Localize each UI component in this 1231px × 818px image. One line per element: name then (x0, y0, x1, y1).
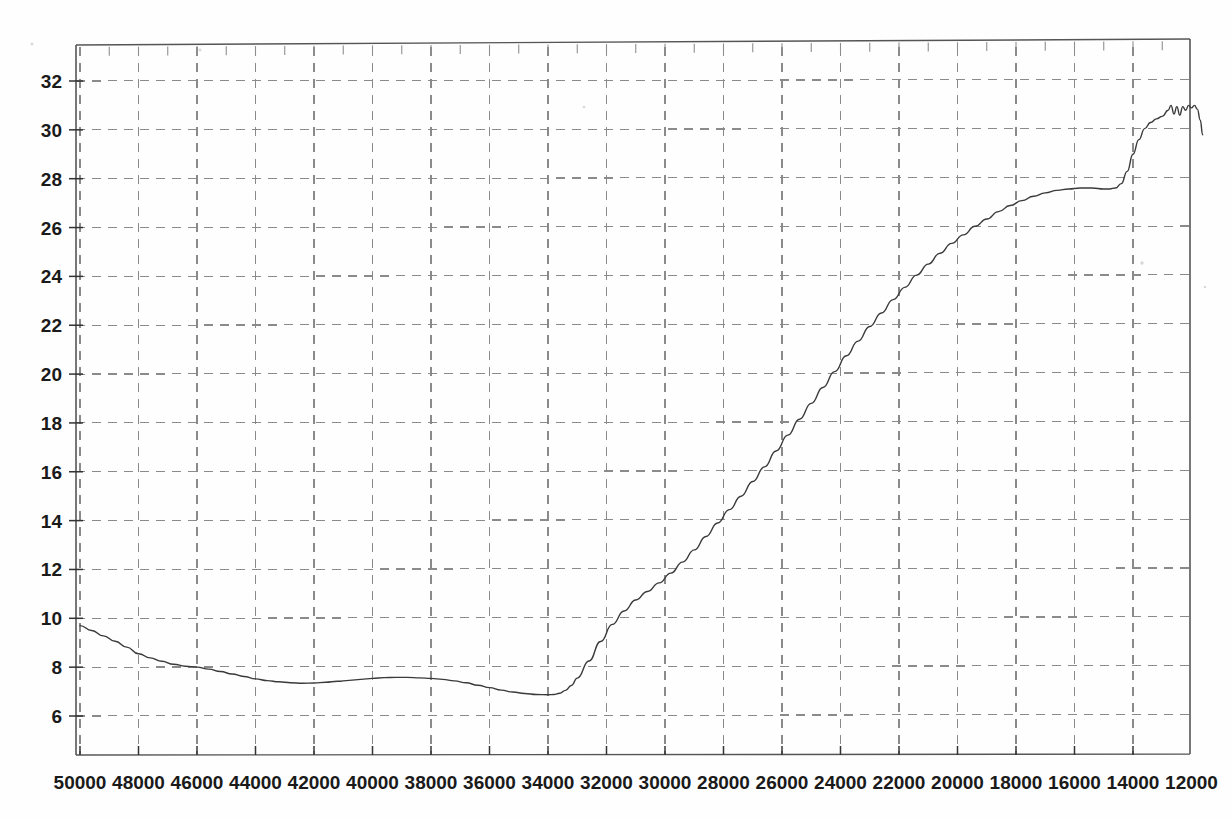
scan-speck (583, 106, 586, 109)
scan-speck (1140, 261, 1143, 264)
y-axis-label: 18 (41, 413, 62, 434)
gridline-y (76, 519, 1190, 521)
gridline-y (76, 128, 1190, 130)
gridline-y (76, 568, 1190, 570)
y-axis-label: 10 (41, 608, 62, 629)
scan-speck (31, 43, 34, 46)
gridline-y (76, 177, 1190, 179)
data-line-spectrum (80, 105, 1203, 694)
x-axis-label: 36000 (463, 772, 516, 793)
x-axis-label: 28000 (697, 772, 750, 793)
gridline-y (76, 617, 1190, 619)
x-axis-label: 32000 (580, 772, 633, 793)
x-axis-label: 44000 (229, 772, 282, 793)
y-axis-label: 24 (41, 266, 63, 287)
gridline-y (76, 226, 1190, 228)
page-canvas: 68101214161820222426283032 5000048000460… (0, 0, 1231, 818)
axis-line-bottom (76, 754, 1190, 755)
y-axis-label: 20 (41, 364, 62, 385)
x-axis-label: 20000 (931, 772, 984, 793)
axis-frame (76, 39, 1190, 755)
scan-speck (199, 49, 202, 52)
x-axis-label: 48000 (112, 772, 165, 793)
y-axis-label: 8 (51, 657, 62, 678)
y-axis-label: 30 (41, 120, 62, 141)
gridline-y (76, 324, 1190, 326)
x-axis-label: 26000 (756, 772, 809, 793)
x-axis-label: 22000 (873, 772, 926, 793)
x-axis-label: 42000 (288, 772, 341, 793)
x-axis-label: 50000 (54, 772, 107, 793)
y-axis-label: 28 (41, 169, 62, 190)
x-axis-minor-ticks (80, 41, 1162, 56)
x-axis-tick-labels: 5000048000460004400042000400003800036000… (54, 772, 1218, 793)
gridline-y (76, 715, 1190, 717)
y-axis-label: 16 (41, 462, 62, 483)
data-series-group (80, 105, 1203, 694)
x-axis-label: 40000 (346, 772, 399, 793)
x-axis-label: 12000 (1165, 772, 1218, 793)
x-axis-label: 14000 (1107, 772, 1160, 793)
x-axis-label: 46000 (171, 772, 224, 793)
scan-artifacts (31, 43, 1207, 289)
horizontal-gridlines (76, 80, 1190, 717)
gridline-y (76, 80, 1190, 82)
y-axis-label: 32 (41, 71, 62, 92)
y-axis-label: 22 (41, 315, 62, 336)
y-axis-label: 6 (51, 706, 62, 727)
y-axis-label: 14 (41, 511, 63, 532)
x-axis-label: 30000 (639, 772, 692, 793)
gridline-y (76, 275, 1190, 277)
y-axis-label: 12 (41, 559, 62, 580)
x-axis-label: 18000 (990, 772, 1043, 793)
x-axis-label: 34000 (522, 772, 575, 793)
axis-line-top (76, 39, 1190, 45)
x-axis-label: 24000 (814, 772, 867, 793)
gridline-y (76, 666, 1190, 668)
chart-plot-area: 68101214161820222426283032 5000048000460… (31, 39, 1218, 793)
x-axis-label: 38000 (405, 772, 458, 793)
gridline-y (76, 373, 1190, 375)
scan-speck (1204, 286, 1206, 288)
spectrum-chart: 68101214161820222426283032 5000048000460… (0, 0, 1231, 818)
y-axis-label: 26 (41, 218, 62, 239)
gridline-y (76, 421, 1190, 423)
vertical-gridlines (80, 47, 1133, 754)
x-axis-label: 16000 (1048, 772, 1101, 793)
y-axis-tick-labels: 68101214161820222426283032 (41, 71, 63, 727)
gridline-y (76, 470, 1190, 472)
